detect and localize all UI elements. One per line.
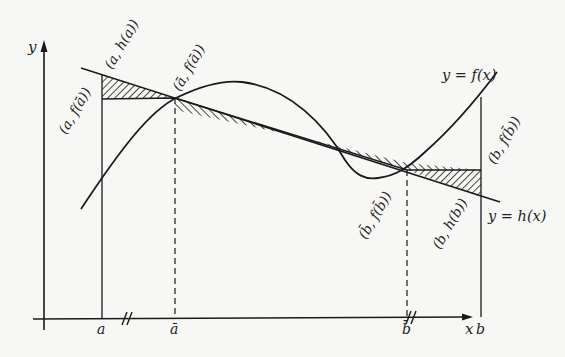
hatch-left-band xyxy=(102,98,300,137)
diagram-canvas: y x a ā b̄ b y = f(x) y = h(x) (a, f(ā))… xyxy=(0,0,565,357)
x-axis-label: x xyxy=(465,320,474,338)
point-label-a-h-a: (a, h(a)) xyxy=(101,16,142,71)
point-label-b-f-bbar: (b, f(b̄)) xyxy=(484,114,524,167)
tick-b-bar: b̄ xyxy=(402,320,411,337)
tick-b: b xyxy=(476,321,485,337)
point-label-bbar-f-bbar: (b̄, f(b̄)) xyxy=(355,189,395,242)
point-label-a-f-abar: (a, f(ā)) xyxy=(55,85,94,137)
y-axis-label: y xyxy=(27,38,37,56)
x-axis xyxy=(33,317,466,319)
straight-lines xyxy=(81,68,500,202)
point-label-abar-f-abar: (ā, f(ā)) xyxy=(169,42,208,94)
label-y-equals-f-x: y = f(x) xyxy=(441,67,496,83)
hatch-right-band xyxy=(407,163,481,170)
tick-a-bar: ā xyxy=(170,321,178,337)
diagram-svg: y x a ā b̄ b y = f(x) y = h(x) (a, f(ā))… xyxy=(0,0,565,357)
tick-a: a xyxy=(97,321,105,337)
y-axis-arrow-icon xyxy=(41,40,48,52)
line-h-of-x xyxy=(81,68,500,202)
vertical-lines xyxy=(102,75,481,319)
label-y-equals-h-x: y = h(x) xyxy=(487,208,546,224)
point-label-b-h-b: (b, h(b)) xyxy=(429,195,471,251)
